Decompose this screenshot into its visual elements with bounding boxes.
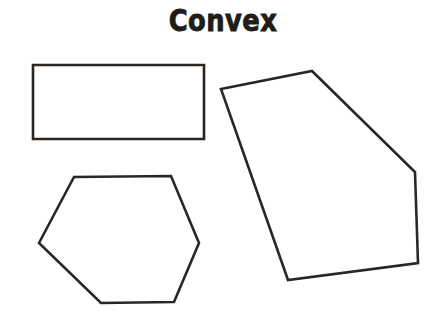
shape-pentagon: [221, 71, 418, 280]
shape-rectangle: [33, 65, 204, 139]
convex-shapes-worksheet: Convex: [0, 0, 446, 329]
shape-hexagon: [39, 176, 199, 303]
shapes-canvas: [0, 0, 446, 329]
